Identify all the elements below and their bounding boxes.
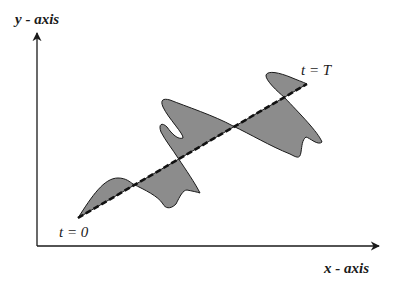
- start-time-label: t = 0: [59, 225, 88, 240]
- diagram-canvas: y - axis x - axis t = 0 t = T: [0, 0, 394, 286]
- diagram-svg: [0, 0, 394, 286]
- x-axis-label: x - axis: [324, 261, 369, 276]
- y-axis-label: y - axis: [15, 12, 59, 27]
- deviation-region: [78, 72, 322, 218]
- end-time-label: t = T: [301, 63, 331, 78]
